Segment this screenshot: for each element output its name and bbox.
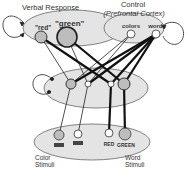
color-stimuli-sublabel: Stimuli: [35, 161, 55, 168]
unit-hidden-color-red: [66, 79, 76, 89]
unit-control-colors: [127, 30, 135, 38]
unit-label-red: "red": [35, 24, 51, 31]
verbal-response-label: Verbal Response: [22, 3, 79, 12]
unit-hidden-word-red: [108, 81, 114, 87]
color-swatch-green: [73, 141, 83, 145]
control-sublabel: (Prefrontal Cortex): [103, 9, 165, 18]
unit-hidden-color-green: [85, 81, 91, 87]
control-label: Control: [121, 0, 146, 9]
unit-stimulus-color-red: [54, 130, 64, 140]
unit-label-words: words: [147, 23, 166, 29]
unit-label-colors: colors: [122, 23, 141, 29]
unit-stimulus-word-red: [105, 129, 113, 137]
color-stimuli-label: Color: [35, 154, 51, 161]
unit-stimulus-word-green: [119, 128, 131, 140]
unit-stimulus-color-green: [74, 130, 82, 138]
word-stimuli-sublabel: Stimuli: [125, 161, 145, 168]
word-label-green: GREEN: [117, 142, 135, 148]
unit-response-red: [35, 31, 47, 43]
unit-response-green: [57, 27, 77, 47]
verbal-recurrent-loop: [3, 16, 24, 37]
word-label-red: RED: [104, 141, 115, 147]
word-stimuli-label: Word: [125, 154, 141, 161]
unit-control-words: [152, 30, 160, 38]
unit-hidden-word-green: [118, 78, 130, 90]
stroop-network-diagram: Verbal Response "red" "green" Control (P…: [0, 0, 190, 182]
color-swatch-red: [54, 143, 64, 147]
unit-label-green: "green": [55, 19, 85, 28]
